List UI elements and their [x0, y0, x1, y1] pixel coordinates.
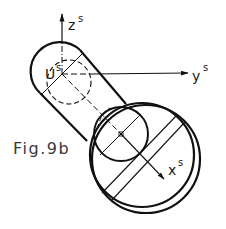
y-axis — [62, 73, 188, 74]
cylinder-upper-edge — [80, 50, 126, 104]
z-axis-label: z — [68, 17, 75, 33]
x-axis-label: x — [168, 162, 176, 178]
x-axis-superscript: s — [178, 157, 183, 168]
y-axis-superscript: s — [203, 62, 208, 73]
point-superscript: s — [56, 62, 61, 73]
figure-caption: Fig.9b — [13, 139, 70, 158]
diagram-figure: z s y s U s x s Fig.9b — [0, 0, 226, 229]
y-axis-label: y — [192, 68, 200, 84]
cylinder-lower-edge — [40, 93, 87, 141]
point-label: U — [45, 66, 55, 82]
z-axis-superscript: s — [78, 13, 83, 24]
